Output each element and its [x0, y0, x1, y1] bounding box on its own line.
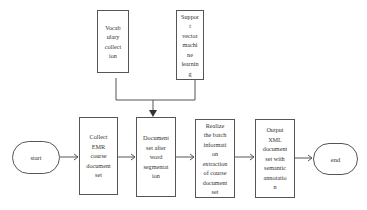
node-output-xml: Output XML document set with semantic an… [255, 119, 295, 198]
node-label: Vocab ulary collect ion [105, 23, 122, 61]
node-document-segmented: Document set after word segmentat ion [136, 117, 176, 197]
node-label: Realize the batch informati on extractio… [203, 121, 228, 197]
node-vocabulary-collection: Vocab ulary collect ion [97, 10, 129, 73]
node-end: end [313, 143, 358, 175]
node-start: start [12, 141, 60, 174]
node-label: Suppor t vector machi ne learnin g [181, 12, 199, 79]
node-label: end [331, 156, 340, 163]
node-label: start [30, 154, 41, 161]
node-label: Output XML document set with semantic an… [263, 125, 287, 192]
node-label: Document set after word segmentat ion [143, 133, 169, 181]
node-collect-emr: Collect EMR course document set [79, 117, 118, 195]
node-batch-extraction: Realize the batch informati on extractio… [195, 119, 235, 198]
node-label: Collect EMR course document set [86, 132, 110, 180]
filled-arrowhead-icon [149, 110, 157, 117]
node-svm-learning: Suppor t vector machi ne learnin g [176, 10, 204, 80]
